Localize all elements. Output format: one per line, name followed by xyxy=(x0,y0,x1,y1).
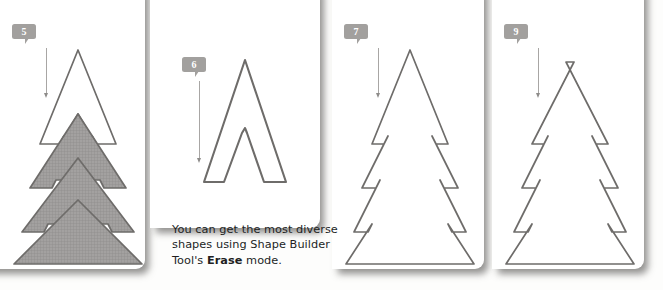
leader-line-7 xyxy=(376,48,382,100)
badge-7: 7 xyxy=(344,24,368,39)
badge-5: 5 xyxy=(12,24,36,39)
caption-line-1: You can get the most diverse xyxy=(172,222,352,237)
caption-text: You can get the most diverse shapes usin… xyxy=(172,222,352,268)
caption-line-3-prefix: Tool's xyxy=(172,254,207,267)
panel-6-artwork xyxy=(196,54,306,194)
panel-5-artwork xyxy=(16,40,146,270)
arrow-down-icon xyxy=(44,93,48,98)
arrow-down-icon xyxy=(536,93,540,98)
callout-tail-icon xyxy=(517,38,524,44)
badge-7-label: 7 xyxy=(354,26,359,37)
callout-tail-icon xyxy=(357,38,364,44)
caption-line-2: shapes using Shape Builder xyxy=(172,237,352,252)
caption-erase-emphasis: Erase xyxy=(207,254,243,267)
leader-line-6 xyxy=(197,81,203,165)
panel-9-artwork xyxy=(508,40,638,270)
caption-line-3: Tool's Erase mode. xyxy=(172,253,352,268)
badge-5-label: 5 xyxy=(22,26,27,37)
panel-7-artwork xyxy=(348,40,478,270)
callout-tail-icon xyxy=(195,71,202,77)
leader-line-5 xyxy=(44,48,50,100)
badge-9-label: 9 xyxy=(514,26,519,37)
arrow-down-icon xyxy=(376,93,380,98)
caption-line-3-suffix: mode. xyxy=(242,254,282,267)
diagram-stage: 5 6 You can get the most diverse shapes … xyxy=(0,0,663,290)
badge-6-label: 6 xyxy=(192,59,197,70)
arrow-down-icon xyxy=(197,158,201,163)
badge-9: 9 xyxy=(504,24,528,39)
badge-6: 6 xyxy=(182,57,206,72)
callout-tail-icon xyxy=(25,38,32,44)
leader-line-9 xyxy=(536,48,542,100)
